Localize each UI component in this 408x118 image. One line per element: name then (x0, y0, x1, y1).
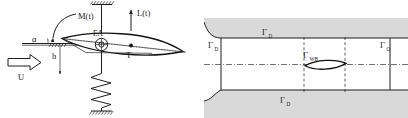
freestream-arrow (8, 55, 41, 71)
bottom-gamma-subscript: D (287, 101, 291, 107)
center-of-mass-label: T (126, 50, 132, 60)
elastic-axis-marker (95, 38, 107, 50)
top-gamma-symbol: Γ (262, 27, 267, 37)
lower-channel-wall (204, 90, 408, 118)
angle-of-attack-label: α (32, 34, 37, 44)
figure-root: M(t) L(t) α h U EA T (0, 0, 408, 118)
plunge-coil-spring (91, 70, 111, 111)
bottom-gamma-symbol: Γ (280, 95, 285, 105)
body-gamma-symbol: Γ (303, 50, 308, 60)
moment-label: M(t) (78, 11, 94, 21)
ceiling-fixed-support (91, 1, 115, 4)
body-boundary-label: Γ WB (303, 50, 318, 62)
center-of-mass-dot (129, 44, 133, 48)
airfoil-section (62, 33, 183, 55)
outlet-gamma-symbol: Γ (380, 40, 385, 50)
angle-of-attack-arc (48, 39, 49, 44)
elastic-axis-label: EA (93, 29, 104, 38)
outlet-gamma-subscript: O (387, 46, 391, 52)
body-gamma-subscript: WB (310, 56, 319, 62)
fluid-domain-panel: Γ D Γ D Γ D Γ WB Γ O (204, 0, 408, 118)
floor-fixed-support (90, 111, 114, 115)
top-gamma-subscript: D (269, 33, 273, 39)
upper-channel-wall (204, 18, 408, 38)
aeroelastic-section-panel: M(t) L(t) α h U EA T (0, 0, 204, 118)
inlet-boundary-label: Γ D (208, 40, 219, 52)
outlet-boundary-label: Γ O (380, 40, 391, 52)
plunge-label: h (52, 51, 57, 61)
inlet-gamma-subscript: D (215, 46, 219, 52)
immersed-airfoil-body (305, 60, 346, 69)
freestream-label: U (18, 72, 24, 82)
moment-arrow (53, 14, 76, 38)
inlet-gamma-symbol: Γ (208, 40, 213, 50)
lift-label: L(t) (137, 8, 150, 18)
